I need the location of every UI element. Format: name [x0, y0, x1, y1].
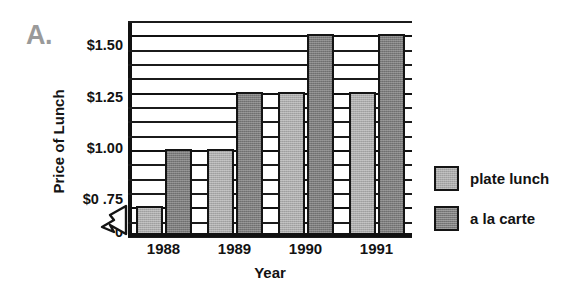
legend-label-plate-lunch: plate lunch — [470, 170, 549, 187]
panel-letter: A. — [26, 22, 52, 49]
gridline — [128, 64, 412, 66]
y-tick-label-100: $1.00 — [57, 140, 123, 156]
legend-item-plate-lunch: plate lunch — [434, 165, 549, 191]
x-tick-label-1990: 1990 — [270, 240, 341, 257]
y-tick-label-125: $1.25 — [57, 89, 123, 105]
bar-a-la-carte-1989 — [236, 92, 263, 237]
gridline — [128, 78, 412, 80]
legend-swatch-plate-lunch — [434, 166, 459, 191]
bar-plate-lunch-1991 — [349, 92, 376, 237]
x-tick-label-1991: 1991 — [341, 240, 412, 257]
axis-break-icon — [100, 203, 140, 237]
gridline — [128, 50, 412, 52]
y-tick-label-150: $1.50 — [57, 37, 123, 53]
bar-a-la-carte-1991 — [378, 34, 405, 237]
bar-a-la-carte-1990 — [307, 34, 334, 237]
chart-legend: plate lunch a la carte — [434, 163, 579, 239]
bar-plate-lunch-1990 — [278, 92, 305, 237]
legend-label-a-la-carte: a la carte — [470, 210, 535, 227]
plot-area — [128, 22, 412, 237]
x-tick-label-1989: 1989 — [199, 240, 270, 257]
x-axis-title: Year — [128, 264, 412, 281]
bar-chart-figure: A. Price of Lunch $1.50 $1.25 $1.00 $0 .… — [0, 0, 583, 296]
y-axis-tick-labels: $1.50 $1.25 $1.00 $0 .75 0 — [57, 0, 123, 296]
legend-swatch-a-la-carte — [434, 206, 459, 231]
legend-item-a-la-carte: a la carte — [434, 205, 535, 231]
gridline — [128, 35, 412, 37]
x-axis-spine — [128, 233, 412, 237]
x-tick-label-1988: 1988 — [128, 240, 199, 257]
gridline — [128, 21, 412, 23]
bar-plate-lunch-1989 — [207, 149, 234, 237]
bar-a-la-carte-1988 — [165, 149, 192, 237]
